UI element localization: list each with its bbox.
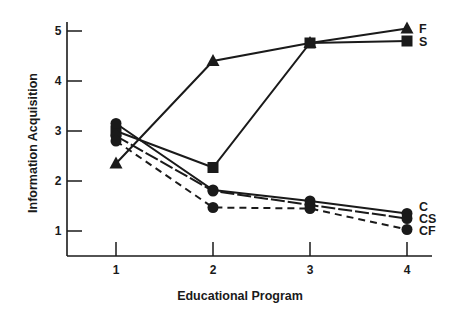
y-tick-label: 4 [55, 74, 62, 88]
y-axis-title: Information Acquisition [26, 73, 40, 213]
series-line-s [116, 41, 407, 168]
marker-s-square-icon [305, 38, 316, 49]
marker-cs-circle-icon [208, 186, 219, 197]
series-layer [110, 22, 414, 236]
series-label-f: F [419, 22, 427, 36]
line-chart: 123451234 FSCCSCF Educational Program In… [0, 0, 455, 318]
marker-cf-circle-icon [402, 224, 413, 235]
marker-f-triangle-icon [401, 22, 414, 34]
x-tick-label: 2 [210, 263, 217, 277]
marker-cs-circle-icon [402, 213, 413, 224]
x-tick-label: 1 [113, 263, 120, 277]
series-line-f [116, 29, 407, 164]
marker-s-square-icon [402, 36, 413, 47]
y-tick-label: 3 [55, 124, 62, 138]
series-label-s: S [419, 35, 427, 49]
x-axis-title: Educational Program [177, 289, 303, 303]
marker-cf-circle-icon [208, 202, 219, 213]
series-line-c [116, 124, 407, 214]
axes: 123451234 [55, 22, 432, 277]
marker-c-circle-icon [111, 118, 122, 129]
marker-cf-circle-icon [111, 136, 122, 147]
labels-layer: FSCCSCF [419, 22, 436, 238]
x-tick-label: 3 [307, 263, 314, 277]
marker-cf-circle-icon [305, 203, 316, 214]
series-label-cf: CF [419, 224, 436, 238]
x-tick-label: 4 [404, 263, 411, 277]
y-tick-label: 1 [55, 224, 62, 238]
y-tick-label: 5 [55, 24, 62, 38]
marker-s-square-icon [208, 162, 219, 173]
y-tick-label: 2 [55, 174, 62, 188]
